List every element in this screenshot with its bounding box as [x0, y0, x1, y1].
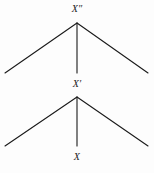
node-label-x-prime: X′ [73, 79, 82, 89]
upper-left-branch [5, 23, 77, 73]
lower-right-branch [77, 97, 148, 146]
lower-left-branch [5, 97, 77, 146]
node-label-x: X [74, 152, 80, 162]
upper-right-branch [77, 23, 148, 73]
node-label-x-double-prime: X″ [72, 4, 83, 14]
derivation-diagram: X″ X′ X [0, 0, 154, 173]
